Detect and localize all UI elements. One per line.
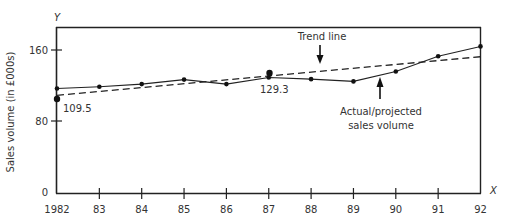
annotation-109-5: 109.5 (63, 103, 92, 114)
y-tick-0: 0 (42, 187, 48, 198)
x-tick-label: 91 (432, 204, 445, 215)
data-point (478, 44, 483, 49)
data-point (394, 69, 399, 74)
data-point (309, 77, 314, 82)
x-tick-label: 89 (347, 204, 360, 215)
x-tick-label: 88 (305, 204, 318, 215)
x-tick-label: 84 (135, 204, 148, 215)
sales-volume-chart: Y X Sales volume (in £000s) 160 80 0 198… (0, 0, 510, 223)
annotation-129-3: 129.3 (260, 84, 289, 95)
trend-start-marker (54, 96, 60, 102)
trend-line-label: Trend line (297, 31, 347, 42)
x-tick-label: 86 (220, 204, 233, 215)
data-point (139, 82, 144, 87)
x-tick-label: 1982 (44, 204, 69, 215)
x-tick-label: 87 (262, 204, 275, 215)
data-point (182, 77, 187, 82)
x-ticks: 198283848586878889909192 (44, 188, 487, 215)
y-tick-160: 160 (29, 45, 48, 56)
data-point (224, 82, 229, 87)
actual-label-line2: sales volume (348, 120, 414, 131)
x-tick-label: 83 (93, 204, 106, 215)
y-axis-letter: Y (54, 12, 61, 23)
actual-arrow-up-icon (377, 77, 384, 99)
data-point (351, 79, 356, 84)
x-axis-letter: X (489, 185, 498, 196)
data-point (55, 86, 60, 91)
y-axis-label: Sales volume (in £000s) (5, 52, 16, 173)
data-point (436, 54, 441, 59)
x-tick-label: 90 (389, 204, 402, 215)
x-tick-label: 92 (474, 204, 487, 215)
actual-sales-line (57, 46, 481, 88)
actual-label-line1: Actual/projected (340, 106, 422, 117)
chart-svg: Y X Sales volume (in £000s) 160 80 0 198… (0, 0, 510, 223)
data-point (97, 84, 102, 89)
y-tick-80: 80 (35, 116, 48, 127)
x-tick-label: 85 (178, 204, 191, 215)
trend-arrow-down-icon (317, 45, 324, 64)
peak-1987-marker (266, 70, 272, 76)
